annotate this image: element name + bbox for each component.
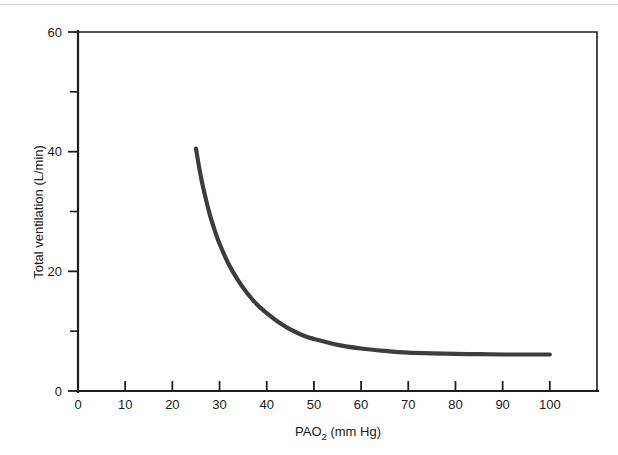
x-tick-label-40: 40 bbox=[259, 397, 273, 412]
x-tick-label-60: 60 bbox=[354, 397, 368, 412]
x-tick-label-10: 10 bbox=[118, 397, 132, 412]
svg-text:PAO2 (mm Hg): PAO2 (mm Hg) bbox=[295, 424, 381, 442]
y-axis: 0204060 bbox=[48, 25, 78, 399]
x-tick-label-100: 100 bbox=[539, 397, 561, 412]
x-tick-label-50: 50 bbox=[307, 397, 321, 412]
svg-text:Total ventilation (L/min): Total ventilation (L/min) bbox=[31, 145, 46, 279]
y-axis-tick-labels: 0204060 bbox=[48, 25, 62, 399]
ventilation-response-curve bbox=[196, 149, 550, 355]
x-tick-label-80: 80 bbox=[448, 397, 462, 412]
x-tick-label-70: 70 bbox=[401, 397, 415, 412]
figure-root: 0204060 0102030405060708090100 PAO2 (mm … bbox=[0, 0, 618, 455]
x-axis-major-ticks bbox=[78, 381, 550, 391]
y-axis-title: Total ventilation (L/min) bbox=[31, 145, 46, 279]
x-axis: 0102030405060708090100 bbox=[74, 381, 598, 412]
x-tick-label-0: 0 bbox=[74, 397, 81, 412]
y-tick-label-0: 0 bbox=[55, 384, 62, 399]
y-axis-minor-ticks bbox=[70, 92, 78, 331]
x-axis-title: PAO2 (mm Hg) bbox=[295, 424, 381, 442]
ventilation-pao2-chart: 0204060 0102030405060708090100 PAO2 (mm … bbox=[0, 0, 618, 455]
x-tick-label-90: 90 bbox=[495, 397, 509, 412]
data-series-group bbox=[196, 149, 550, 355]
x-tick-label-20: 20 bbox=[165, 397, 179, 412]
x-axis-tick-labels: 0102030405060708090100 bbox=[74, 397, 560, 412]
y-tick-label-60: 60 bbox=[48, 25, 62, 40]
y-tick-label-20: 20 bbox=[48, 264, 62, 279]
x-tick-label-30: 30 bbox=[212, 397, 226, 412]
plot-frame bbox=[78, 32, 597, 391]
y-tick-label-40: 40 bbox=[48, 144, 62, 159]
